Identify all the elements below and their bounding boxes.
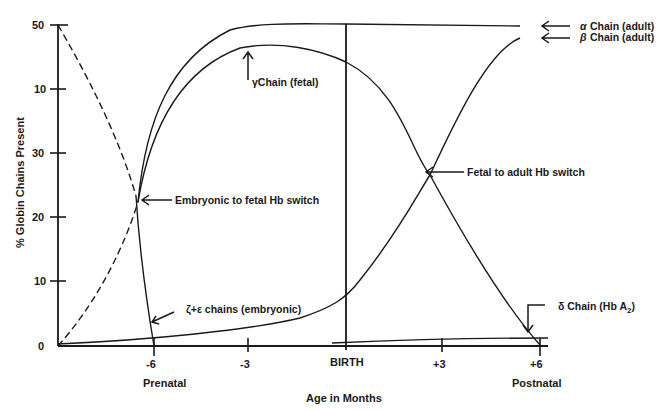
- zeta-epsilon-solid-decline: [136, 196, 154, 346]
- curves: [58, 24, 548, 346]
- y-tick-20: 20: [32, 211, 44, 223]
- fetal-switch-label: Fetal to adult Hb switch: [467, 166, 585, 178]
- embryonic-switch-arrow-icon: [142, 195, 172, 205]
- y-tick-0: 0: [38, 340, 44, 352]
- y-tick-10: 10: [34, 275, 46, 287]
- x-tick-minus6: -6: [146, 358, 156, 370]
- x-tick-plus3: +3: [433, 358, 446, 370]
- fetal-switch-arrow-icon: [426, 167, 464, 177]
- y-tick-50: 50: [32, 19, 44, 31]
- annotations: α Chain (adult) β Chain (adult) γChain (…: [142, 20, 654, 332]
- zeta-epsilon-label: ζ+ε chains (embryonic): [186, 303, 301, 316]
- x-tick-plus6: +6: [530, 358, 543, 370]
- y-axis-title: % Globin Chains Present: [14, 117, 26, 248]
- beta-symbol: β: [579, 31, 587, 43]
- zeta-epsilon-dashed-decline: [58, 25, 136, 196]
- x-axis-title: Age in Months: [306, 392, 382, 404]
- x-tick-minus3: -3: [240, 358, 250, 370]
- beta-label: Chain (adult): [590, 31, 654, 43]
- x-tick-birth: BIRTH: [330, 356, 364, 368]
- embryonic-switch-label: Embryonic to fetal Hb switch: [175, 194, 319, 206]
- beta-arrow-icon: [542, 33, 570, 43]
- alpha-chain-curve: [138, 24, 520, 202]
- delta-chain-curve: [332, 338, 548, 343]
- y-axis: 50 10 30 20 10 0 % Globin Chains Present: [14, 19, 68, 352]
- y-tick-30: 30: [32, 147, 44, 159]
- zeta-arrow-icon: [152, 312, 174, 324]
- delta-label: δ Chain (Hb A2): [558, 300, 635, 315]
- gamma-label: γChain (fetal): [252, 76, 319, 88]
- y-tick-40: 10: [34, 83, 46, 95]
- postnatal-label: Postnatal: [512, 377, 562, 389]
- early-rise-dashed: [58, 202, 138, 346]
- globin-chain-chart: 50 10 30 20 10 0 % Globin Chains Present…: [0, 0, 664, 410]
- prenatal-label: Prenatal: [143, 377, 186, 389]
- alpha-arrow-icon: [542, 21, 570, 31]
